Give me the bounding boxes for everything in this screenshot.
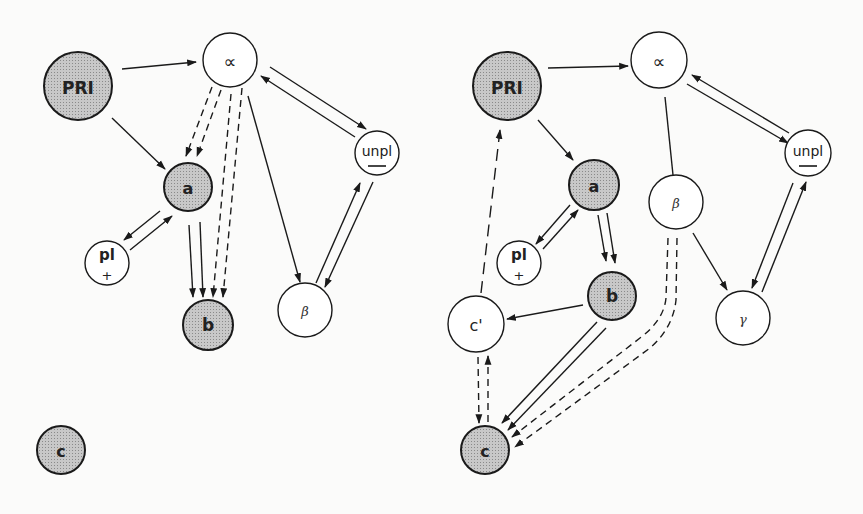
- left-node-b: b: [183, 300, 233, 350]
- node-label: pl: [99, 246, 115, 264]
- edge-alpha-unpl: [687, 84, 788, 143]
- diagram-svg: PRI ∝ a pl + b β unpl c: [0, 0, 863, 514]
- right-node-beta: β: [649, 175, 703, 229]
- node-label: c': [469, 316, 482, 335]
- edge-a-b-2: [607, 213, 615, 263]
- edge-pri-alpha: [122, 62, 196, 69]
- node-label: b: [606, 286, 618, 306]
- edge-alpha-a-dashed-2: [197, 90, 221, 156]
- node-label: c: [480, 442, 489, 461]
- diagram-canvas: PRI ∝ a pl + b β unpl c: [0, 0, 863, 514]
- edge-b-c-2: [508, 328, 606, 430]
- edge-a-pl: [124, 211, 160, 240]
- edge-beta-unpl: [316, 183, 360, 283]
- left-node-pri: PRI: [44, 52, 112, 120]
- right-node-pri: PRI: [473, 52, 541, 120]
- edge-alpha-b-dashed-1: [213, 94, 231, 297]
- node-label: γ: [739, 312, 747, 327]
- edge-unpl-alpha: [261, 76, 355, 137]
- left-node-alpha: ∝: [203, 33, 257, 87]
- edge-pri-alpha: [548, 66, 628, 68]
- left-node-pl: pl +: [85, 241, 129, 285]
- edge-cprime-c: [478, 357, 479, 423]
- right-panel: PRI ∝ unpl a β pl + b c': [448, 32, 831, 474]
- node-label: unpl: [362, 143, 393, 159]
- node-label: PRI: [491, 78, 523, 98]
- right-node-cprime: c': [448, 296, 504, 352]
- right-node-gamma: γ: [716, 291, 770, 345]
- edge-a-b-1: [598, 215, 606, 261]
- node-label: ∝: [653, 51, 666, 72]
- node-label: unpl: [793, 143, 824, 159]
- edge-alpha-b-dashed-2: [223, 88, 242, 297]
- edge-b-c-1: [502, 322, 597, 423]
- node-label: ∝: [224, 51, 237, 72]
- node-label: β: [671, 196, 680, 211]
- edge-pl-a: [130, 216, 172, 250]
- node-label: b: [202, 315, 214, 335]
- edge-beta-gamma: [693, 233, 727, 290]
- edge-alpha-beta: [248, 96, 300, 282]
- left-node-c: c: [37, 426, 85, 474]
- edge-unpl-gamma: [752, 183, 793, 288]
- right-node-pl: pl +: [497, 241, 541, 285]
- right-node-unpl: unpl: [785, 130, 831, 176]
- right-node-a: a: [569, 160, 619, 210]
- edge-gamma-unpl: [762, 182, 806, 292]
- node-label: c: [56, 442, 65, 461]
- edge-unpl-alpha: [692, 75, 789, 133]
- node-label: PRI: [62, 78, 94, 98]
- edge-b-cprime: [507, 305, 583, 319]
- right-node-c: c: [461, 426, 509, 474]
- edge-alpha-beta: [665, 97, 673, 175]
- node-label: a: [183, 179, 194, 198]
- node-label: a: [589, 177, 600, 196]
- edge-a-b-1: [189, 225, 193, 297]
- left-panel: PRI ∝ a pl + b β unpl c: [37, 33, 399, 474]
- node-label: β: [300, 304, 309, 319]
- edge-a-b-2: [200, 222, 203, 297]
- left-node-unpl: unpl: [355, 131, 399, 175]
- edge-unpl-beta: [325, 182, 373, 287]
- left-edges: [112, 62, 373, 297]
- edge-pri-a: [112, 118, 165, 169]
- node-label: pl: [511, 246, 527, 264]
- edge-pri-a: [538, 120, 573, 160]
- right-node-b: b: [588, 272, 636, 320]
- left-node-a: a: [164, 163, 212, 211]
- edge-alpha-unpl: [270, 67, 366, 129]
- left-node-beta: β: [278, 283, 332, 337]
- node-sublabel: +: [102, 268, 113, 283]
- right-node-alpha: ∝: [631, 32, 687, 88]
- node-sublabel: +: [514, 268, 525, 283]
- edge-alpha-a-dashed-1: [186, 87, 212, 156]
